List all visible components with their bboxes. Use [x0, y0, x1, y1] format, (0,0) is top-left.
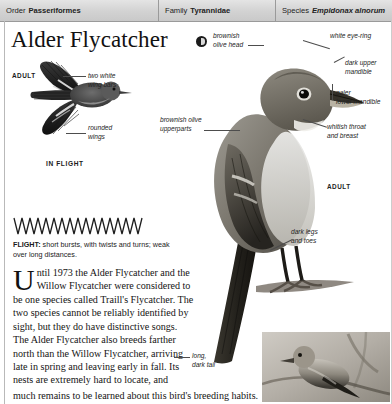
adult-bird-illustration	[170, 24, 370, 369]
order-label: Order	[6, 6, 25, 15]
leader-brownish-olive-head	[248, 45, 264, 46]
label-long-dark-tail: long, dark tail	[192, 352, 215, 369]
leader-wing-bars	[63, 76, 86, 77]
family-label: Family	[165, 6, 187, 15]
wing-bars-line-1: two white	[88, 72, 116, 81]
label-paler-lower-mandible: paler lower mandible	[336, 89, 380, 106]
label-dark-upper-mandible: dark upper mandible	[345, 59, 377, 76]
in-flight-label: IN FLIGHT	[46, 160, 84, 167]
description-paragraph: Until 1973 the Alder Flycatcher and the …	[13, 266, 195, 387]
wing-bars-line-2: wing bars	[88, 81, 116, 90]
whitish-throat-line-2: and breast	[327, 132, 366, 141]
bird-photograph	[262, 332, 390, 402]
brownish-olive-upperparts-line-1: brownish olive	[160, 116, 202, 125]
in-flight-illustration	[18, 58, 138, 143]
order-value: Passeriformes	[28, 6, 80, 15]
label-rounded-wings: rounded wings	[88, 124, 112, 141]
flight-adult-label: ADULT	[12, 72, 36, 79]
dark-legs-line-2: and toes	[291, 237, 318, 246]
label-brownish-olive-head: brownish olive head	[213, 32, 243, 49]
dark-upper-mandible-line-1: dark upper	[345, 59, 377, 68]
whitish-throat-line-1: whitish throat	[327, 123, 366, 132]
rounded-wings-line-2: wings	[88, 133, 112, 142]
flight-caption-title: FLIGHT:	[13, 240, 41, 249]
taxonomic-header: Order Passeriformes Family Tyrannidae Sp…	[0, 0, 392, 22]
page-title: Alder Flycatcher	[11, 27, 168, 53]
rounded-wings-line-1: rounded	[88, 124, 112, 133]
brownish-olive-upperparts-line-2: upperparts	[160, 125, 202, 134]
species-label: Species	[282, 6, 309, 15]
family-value: Tyrannidae	[190, 6, 230, 15]
flight-path-diagram	[13, 215, 144, 237]
page-rule-left	[4, 21, 5, 404]
long-dark-tail-line-1: long,	[192, 352, 215, 361]
flight-caption: FLIGHT: short bursts, with twists and tu…	[13, 240, 173, 261]
label-white-eye-ring: white eye-ring	[330, 32, 371, 41]
leader-long-dark-tail	[174, 357, 190, 358]
label-two-white-wing-bars: two white wing bars	[88, 72, 116, 89]
header-order-cell: Order Passeriformes	[0, 0, 159, 21]
species-value: Empidonax alnorum	[312, 6, 385, 15]
leader-brownish-olive-upperparts	[204, 130, 240, 131]
leader-rounded-wings	[66, 133, 86, 134]
field-guide-page: Order Passeriformes Family Tyrannidae Sp…	[0, 0, 392, 404]
header-species-cell: Species Empidonax alnorum	[276, 0, 392, 21]
dark-upper-mandible-line-2: mandible	[345, 68, 377, 77]
leader-paler-lower-mandible	[332, 84, 333, 100]
label-dark-legs-and-toes: dark legs and toes	[291, 228, 318, 245]
drop-cap: U	[13, 266, 37, 292]
header-family-cell: Family Tyrannidae	[159, 0, 276, 21]
brownish-olive-head-line-2: olive head	[213, 41, 243, 50]
label-brownish-olive-upperparts: brownish olive upperparts	[160, 116, 202, 133]
label-adult-main: ADULT	[327, 183, 351, 191]
dark-legs-line-1: dark legs	[291, 228, 318, 237]
label-whitish-throat-and-breast: whitish throat and breast	[327, 123, 366, 140]
brownish-olive-head-line-1: brownish	[213, 32, 243, 41]
paler-lower-mandible-line-1: paler	[336, 89, 380, 98]
long-dark-tail-line-2: dark tail	[192, 361, 215, 370]
description-text: ntil 1973 the Alder Flycatcher and the W…	[13, 267, 193, 385]
paler-lower-mandible-line-2: lower mandible	[336, 98, 380, 107]
